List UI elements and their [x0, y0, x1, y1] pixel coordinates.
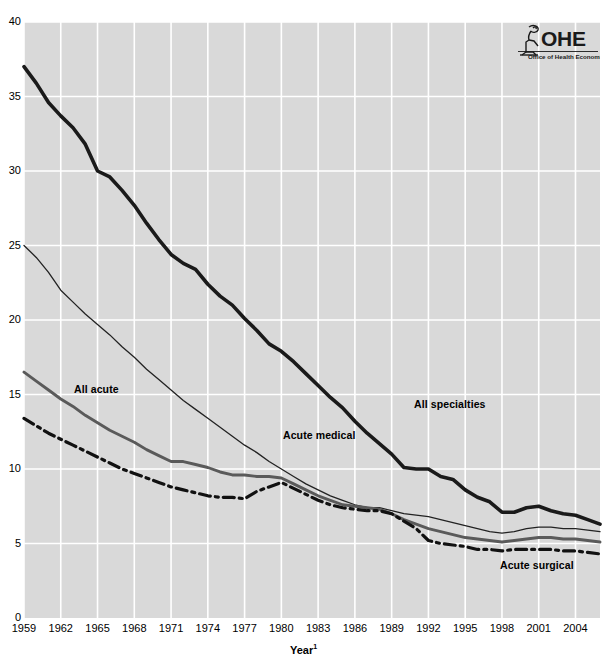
- x-axis-title-footnote-marker: 1: [313, 643, 317, 650]
- series-label-acute-surgical: Acute surgical: [500, 559, 574, 571]
- y-axis-tick-labels: 0510152025303540: [0, 22, 21, 618]
- series-label-all-acute: All acute: [74, 383, 119, 395]
- y-axis-tick-label: 35: [1, 91, 21, 102]
- series-path-all-specialties: [24, 67, 600, 524]
- ohe-figure-icon: [520, 26, 538, 55]
- series-path-all-acute: [24, 372, 600, 542]
- ohe-acronym-text: OHE: [541, 27, 586, 50]
- x-axis-tick-labels: 1959196219651968197119741977198019831986…: [24, 622, 600, 638]
- series-label-acute-medical: Acute medical: [283, 429, 356, 441]
- series-label-all-specialties: All specialties: [414, 398, 486, 410]
- y-axis-tick-label: 30: [1, 165, 21, 176]
- plot-area: [24, 22, 600, 618]
- y-axis-tick-label: 15: [1, 389, 21, 400]
- ohe-logo: OHE Office of Health Economics: [516, 22, 600, 62]
- y-axis-tick-label: 40: [1, 16, 21, 27]
- y-axis-tick-label: 10: [1, 463, 21, 474]
- ohe-logo-graphic: OHE Office of Health Economics: [516, 22, 600, 62]
- y-axis-tick-label: 5: [1, 538, 21, 549]
- chart-figure: 0510152025303540 19591962196519681971197…: [0, 0, 607, 659]
- x-axis-title-text: Year: [290, 644, 313, 656]
- series-lines: [24, 22, 600, 618]
- y-axis-tick-label: 25: [1, 240, 21, 251]
- y-axis-tick-label: 20: [1, 314, 21, 325]
- x-axis-tick-label: 2004: [553, 622, 597, 634]
- ohe-tagline-text: Office of Health Economics: [528, 53, 600, 60]
- x-axis-title: Year1: [0, 643, 607, 656]
